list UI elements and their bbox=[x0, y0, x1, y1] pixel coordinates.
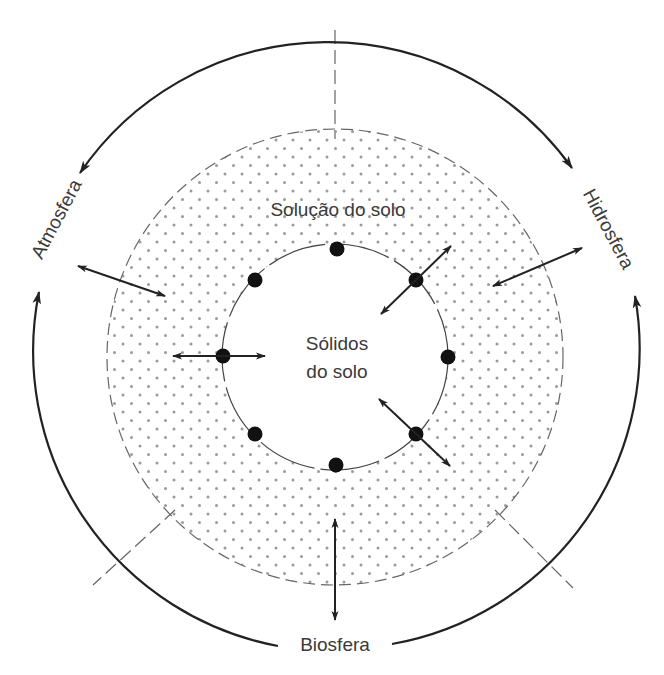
particle bbox=[441, 350, 456, 365]
soil-solution-label: Solução do solo bbox=[270, 199, 405, 220]
hydrosphere-label: Hidrosfera bbox=[579, 185, 639, 273]
soil-system-diagram: Solução do solo Sólidos do solo Atmosfer… bbox=[0, 0, 664, 675]
particle bbox=[330, 242, 345, 257]
biosphere-label: Biosfera bbox=[300, 634, 370, 655]
particle bbox=[248, 427, 263, 442]
atmosphere-label: Atmosfera bbox=[27, 175, 86, 262]
soil-solids-label-line2: do solo bbox=[306, 361, 367, 382]
soil-solids-label-line1: Sólidos bbox=[306, 333, 368, 354]
particle bbox=[248, 273, 263, 288]
particle bbox=[329, 458, 344, 473]
